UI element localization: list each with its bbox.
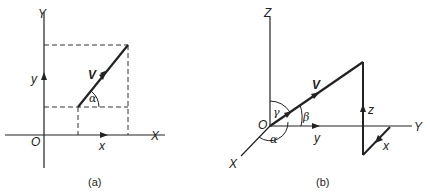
y-component-label-b: y xyxy=(313,131,321,145)
x-component-label-b: x xyxy=(382,139,390,153)
angle-alpha-label-a: α xyxy=(89,92,97,105)
y-axis-label-b: Y xyxy=(414,120,423,134)
z-component-arrow-b xyxy=(360,104,366,112)
y-component-arrow-b xyxy=(312,123,320,129)
figure-b: Z Y X O V y z x γ β α (b) xyxy=(228,6,423,188)
figure-a: Y X O V y x α (a) xyxy=(5,7,165,188)
vector-components-figure: Y X O V y x α (a) Z Y X O V xyxy=(0,0,430,192)
origin-label-a: O xyxy=(31,135,40,149)
angle-gamma-label-b: γ xyxy=(273,106,280,119)
y-component-arrow xyxy=(41,72,47,80)
vector-label-a: V xyxy=(88,68,97,82)
y-component-label-a: y xyxy=(30,72,38,86)
y-axis-label-a: Y xyxy=(38,7,47,21)
figure-svg: Y X O V y x α (a) Z Y X O V xyxy=(0,0,430,192)
z-component-label-b: z xyxy=(367,103,374,117)
angle-alpha-label-b: α xyxy=(270,133,278,146)
angle-beta-label-b: β xyxy=(302,111,309,124)
vector-label-b: V xyxy=(312,78,321,92)
x-component-arrow xyxy=(100,132,108,138)
x-component-label-a: x xyxy=(98,139,106,153)
dashed-projections-a xyxy=(44,45,128,135)
origin-label-b: O xyxy=(258,118,267,132)
x-axis-label-b: X xyxy=(228,157,238,171)
x-axis-label-a: X xyxy=(150,129,160,143)
caption-a: (a) xyxy=(88,176,101,188)
caption-b: (b) xyxy=(316,176,329,188)
vector-v-arrow-b2 xyxy=(284,111,292,118)
angle-beta-arc-b xyxy=(300,105,302,126)
z-axis-label-b: Z xyxy=(263,6,272,20)
